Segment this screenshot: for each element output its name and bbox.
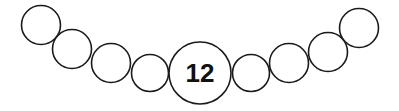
circle-2 (53, 30, 92, 69)
bead-arc-diagram: 12 (0, 0, 399, 111)
circle-5 (233, 55, 270, 92)
circle-8 (340, 9, 379, 48)
circle-4 (132, 55, 169, 92)
circle-6 (270, 44, 309, 83)
center-node: 12 (169, 42, 231, 104)
center-number-label: 12 (186, 58, 215, 88)
circle-3 (92, 44, 131, 83)
